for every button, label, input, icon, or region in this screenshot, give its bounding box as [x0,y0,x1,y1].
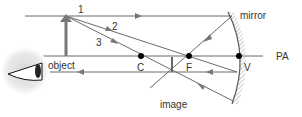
point-v [236,53,242,59]
point-c [138,53,144,59]
label-f: F [186,62,192,73]
ray-3 [66,16,233,101]
point-f [186,53,192,59]
ray-1-arrow-icon [135,13,142,19]
ray-1 [25,16,232,88]
ray-diagram: 1 2 3 mirror PA object C F V image [0,0,302,117]
ray-2-reflect-arrow2-icon [206,69,213,75]
eye-icon [1,47,49,95]
ray-3-reflect-arrow-icon [197,83,205,90]
label-pa: PA [276,51,289,62]
label-ray-1: 1 [78,4,84,15]
label-object: object [48,60,75,71]
label-v: V [244,62,251,73]
label-c: C [137,62,144,73]
label-ray-3: 3 [96,37,102,48]
label-ray-2: 2 [112,21,118,32]
label-image: image [160,99,188,110]
label-mirror: mirror [240,10,267,21]
ray-2-reflect-arrow-icon [77,69,84,75]
